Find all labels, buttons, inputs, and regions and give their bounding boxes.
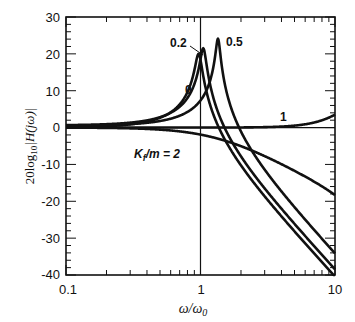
- y-tick-label: -30: [41, 231, 60, 246]
- curve-label-kf-m-2: Kf/m = 2: [134, 147, 180, 163]
- y-axis-label: 20log10|H(jω)|: [22, 108, 39, 185]
- curve-label-0.2: 0.2: [170, 36, 187, 50]
- x-tick-labels: 0.1 1 10: [59, 282, 342, 297]
- y-tick-label: 30: [46, 10, 60, 25]
- x-tick-label: 10: [328, 282, 342, 297]
- curve-label-0.5: 0.5: [226, 35, 243, 49]
- y-tick-label: -10: [41, 157, 60, 172]
- x-axis-label: ω/ω0: [179, 301, 208, 318]
- y-tick-labels: 30 20 10 0 -10 -20 -30 -40: [41, 10, 60, 282]
- y-tick-label: -40: [41, 267, 60, 282]
- x-tick-label: 0.1: [59, 282, 77, 297]
- y-tick-label: -20: [41, 194, 60, 209]
- y-tick-label: 0: [53, 120, 60, 135]
- y-tick-label: 20: [46, 47, 60, 62]
- bode-magnitude-chart: 30 20 10 0 -10 -20 -30 -40 0.1 1 10 ω/ω0…: [0, 0, 355, 322]
- y-tick-label: 10: [46, 84, 60, 99]
- curve-label-1: 1: [280, 110, 287, 124]
- curve-label-0: 0: [185, 83, 192, 97]
- x-tick-label: 1: [197, 282, 204, 297]
